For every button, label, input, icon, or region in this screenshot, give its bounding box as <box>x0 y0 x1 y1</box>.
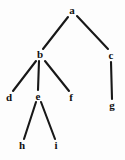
tree-diagram: abcdefghi <box>0 0 125 160</box>
tree-node-f: f <box>69 92 73 103</box>
tree-edge-e-i <box>41 102 55 139</box>
tree-edge-b-d <box>13 61 36 91</box>
tree-edge-a-c <box>77 16 108 49</box>
tree-edge-c-g <box>111 62 112 99</box>
tree-node-b: b <box>37 49 43 60</box>
tree-node-a: a <box>69 5 75 16</box>
edge-group <box>13 16 112 139</box>
tree-node-c: c <box>109 50 114 61</box>
tree-edge-a-b <box>43 17 68 49</box>
tree-edge-e-h <box>24 102 36 139</box>
tree-node-d: d <box>6 92 12 103</box>
tree-edge-b-e <box>38 61 39 90</box>
tree-node-i: i <box>54 140 57 151</box>
tree-node-h: h <box>19 140 25 151</box>
tree-edge-b-f <box>45 61 69 91</box>
tree-node-e: e <box>36 91 41 102</box>
tree-node-g: g <box>109 100 115 111</box>
tree-edges-layer <box>0 0 125 160</box>
